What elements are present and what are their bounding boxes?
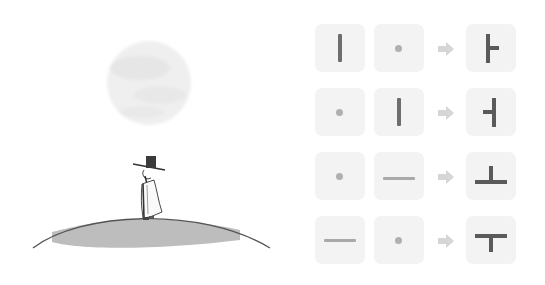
horizontal-bar-icon — [324, 239, 356, 242]
tile-horizontal-bar — [315, 216, 365, 264]
vowel-o-icon — [466, 152, 516, 200]
vowel-eo-icon — [466, 88, 516, 136]
man-figure-icon — [133, 156, 165, 220]
arrow-right-icon — [438, 106, 454, 120]
dot-icon — [395, 45, 402, 52]
tile-result-eo — [466, 88, 516, 136]
arrow-right-icon — [438, 234, 454, 248]
horizontal-bar-icon — [383, 177, 415, 180]
hill-icon — [33, 219, 270, 248]
tile-vertical-bar — [315, 24, 365, 72]
vertical-bar-icon — [397, 98, 401, 126]
dot-icon — [395, 237, 402, 244]
tile-dot — [315, 88, 365, 136]
scene-svg — [0, 0, 280, 285]
dot-icon — [336, 109, 343, 116]
tile-vertical-bar — [374, 88, 424, 136]
arrow-right-icon — [438, 170, 454, 184]
vowel-a-icon — [466, 24, 516, 72]
tile-dot — [374, 24, 424, 72]
tile-dot — [315, 152, 365, 200]
arrow-right-icon — [438, 42, 454, 56]
tile-result-a — [466, 24, 516, 72]
vertical-bar-icon — [338, 34, 342, 62]
tile-result-o — [466, 152, 516, 200]
dot-icon — [336, 173, 343, 180]
illustration-scene — [0, 0, 280, 285]
tile-horizontal-bar — [374, 152, 424, 200]
vowel-u-icon — [466, 216, 516, 264]
moon-icon — [107, 41, 191, 125]
tile-dot — [374, 216, 424, 264]
tile-result-u — [466, 216, 516, 264]
